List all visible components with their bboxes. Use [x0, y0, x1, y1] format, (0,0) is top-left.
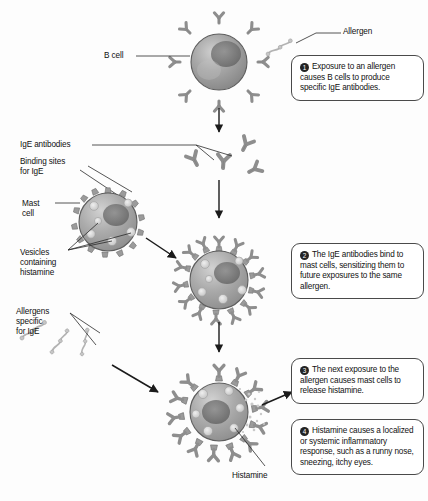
label-histamine: Histamine [232, 471, 268, 481]
callout-step-3: 3The next exposure to the allergen cause… [291, 358, 424, 404]
callout-number-2: 2 [300, 251, 309, 260]
callout-text-1: Exposure to an allergen causes B cells t… [300, 62, 395, 92]
free-ige-antibodies [186, 136, 262, 177]
allergen-molecule-top [264, 39, 293, 57]
mast-cell-nucleus [103, 204, 129, 226]
label-ige-antibodies: IgE antibodies [20, 140, 71, 150]
mast-cell-degranulating [168, 365, 269, 461]
callout-text-3: The next exposure to the allergen causes… [300, 365, 401, 395]
callout-number-3: 3 [300, 366, 309, 375]
arrow-histamine-to-response [262, 392, 292, 405]
arrow-mastcell-to-sensitized [146, 238, 176, 258]
histamine-leader-line [235, 428, 265, 466]
allergens-leader-line [70, 313, 100, 333]
callout-number-1: 1 [300, 63, 309, 72]
callout-step-4: 4Histamine causes a localized or systemi… [291, 419, 424, 475]
b-cell-structure [170, 13, 268, 111]
mast-cell-sensitized [173, 237, 264, 324]
sensitized-cell-nucleus [214, 262, 240, 284]
callout-step-1: 1Exposure to an allergen causes B cells … [291, 55, 424, 101]
label-vesicles: Vesicles containing histamine [20, 248, 56, 279]
label-b-cell: B cell [104, 51, 123, 61]
callout-text-4: Histamine causes a localized or systemic… [300, 426, 414, 467]
callout-text-2: The IgE antibodies bind to mast cells, s… [300, 250, 404, 291]
label-mast-cell: Mast cell [22, 199, 39, 219]
allergy-diagram-canvas: B cell Allergen IgE antibodies Binding s… [0, 0, 428, 501]
label-allergens-specific: Allergens specific for IgE [16, 307, 49, 338]
callout-number-4: 4 [300, 427, 309, 436]
label-allergen: Allergen [343, 27, 372, 37]
label-binding-sites: Binding sites for IgE [20, 157, 65, 177]
degranulating-cell-nucleus [202, 400, 230, 424]
callout-step-2: 2The IgE antibodies bind to mast cells, … [291, 243, 424, 299]
arrow-allergens-to-mastcell [112, 365, 158, 392]
